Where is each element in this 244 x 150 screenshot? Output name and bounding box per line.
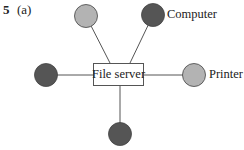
node-computer bbox=[142, 4, 165, 27]
computer-label: Computer bbox=[167, 7, 217, 22]
file-server-hub: File server bbox=[93, 63, 144, 86]
node-bottom bbox=[109, 123, 132, 146]
printer-label: Printer bbox=[209, 67, 243, 82]
question-number: 5 bbox=[3, 2, 10, 18]
node-top-left bbox=[75, 5, 98, 28]
node-left bbox=[35, 64, 58, 87]
question-part: (a) bbox=[17, 2, 31, 18]
node-printer bbox=[183, 64, 206, 87]
